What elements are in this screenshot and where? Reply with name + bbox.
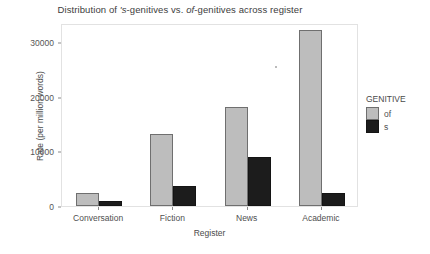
- y-tick-label: 20000: [8, 93, 54, 103]
- y-tick-label: 10000: [8, 147, 54, 157]
- bar-fiction-of: [150, 134, 173, 206]
- legend-label-of: of: [384, 109, 391, 119]
- bar-academic-s: [322, 193, 345, 206]
- legend-items: ofs: [366, 107, 406, 133]
- chart-legend: GENITIVE ofs: [366, 94, 406, 133]
- plot-area: [62, 25, 357, 206]
- x-tick-label-fiction: Fiction: [160, 213, 185, 223]
- bar-academic-of: [299, 30, 322, 206]
- x-tick-label-academic: Academic: [302, 213, 339, 223]
- x-tick-mark: [247, 207, 248, 210]
- x-axis-title: Register: [61, 228, 358, 238]
- legend-swatch-of: [366, 107, 379, 120]
- bar-news-s: [248, 157, 271, 206]
- legend-swatch-s: [366, 120, 379, 133]
- bar-fiction-s: [173, 186, 196, 206]
- chart-title-lead: Distribution of: [58, 4, 120, 15]
- chart-title-tail: -genitives across register: [194, 4, 302, 15]
- x-tick-mark: [172, 207, 173, 210]
- legend-row-s[interactable]: s: [366, 120, 406, 133]
- legend-label-s: s: [384, 122, 388, 132]
- x-tick-mark: [321, 207, 322, 210]
- legend-title: GENITIVE: [366, 94, 406, 104]
- bar-conversation-s: [99, 201, 122, 206]
- bar-news-of: [225, 107, 248, 206]
- legend-row-of[interactable]: of: [366, 107, 406, 120]
- image-speck: [275, 66, 277, 68]
- plot-panel: [61, 24, 358, 207]
- y-tick-label: 30000: [8, 38, 54, 48]
- bar-conversation-of: [76, 193, 99, 206]
- bar-chart: Distribution of 's-genitives vs. of-geni…: [0, 0, 430, 254]
- chart-title: Distribution of 's-genitives vs. of-geni…: [0, 4, 360, 15]
- y-tick-label: 0: [8, 202, 54, 212]
- x-tick-label-news: News: [236, 213, 257, 223]
- x-tick-mark: [98, 207, 99, 210]
- chart-title-italic-s-genitive: 's: [120, 4, 127, 15]
- chart-title-mid: -genitives vs.: [127, 4, 187, 15]
- x-tick-label-conversation: Conversation: [73, 213, 123, 223]
- y-axis-title-wrap: Rate (per million words): [14, 24, 26, 207]
- y-axis-title: Rate (per million words): [35, 46, 45, 186]
